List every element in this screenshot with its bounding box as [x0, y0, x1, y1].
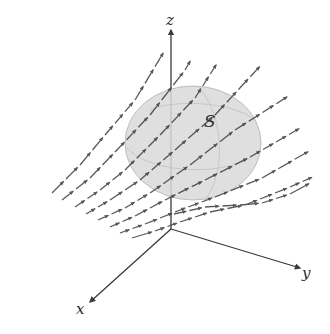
vector-arrow: [276, 136, 286, 142]
vector-arrow: [62, 191, 73, 200]
vector-arrow: [100, 182, 110, 190]
vector-arrow: [112, 209, 122, 214]
vector-arrow: [123, 217, 132, 221]
vector-arrow: [180, 218, 192, 222]
vector-arrow: [110, 223, 119, 227]
vector-arrow: [76, 180, 87, 189]
vector-arrow: [263, 106, 274, 113]
vector-arrow: [125, 202, 135, 208]
vector-arrow: [223, 205, 237, 206]
vector-arrow: [263, 144, 273, 150]
surface-label: S: [204, 111, 216, 131]
vector-arrow: [155, 53, 163, 67]
vector-arrow: [113, 172, 123, 180]
vector-arrow: [145, 70, 153, 84]
x-axis: [90, 229, 171, 302]
vector-arrow: [86, 209, 95, 214]
vector-arrow: [150, 202, 162, 208]
x-axis-label: x: [76, 300, 85, 318]
vector-arrow: [115, 114, 123, 123]
vector-arrow: [295, 152, 308, 160]
vector-arrow: [93, 138, 103, 150]
vector-arrow: [155, 228, 164, 231]
vector-arrow: [240, 203, 259, 205]
vector-arrow: [203, 77, 209, 86]
vector-arrow: [246, 179, 258, 184]
vector-arrow: [138, 195, 148, 201]
vector-arrow: [75, 201, 85, 208]
vector-arrow: [210, 209, 224, 212]
vector-arrow: [98, 215, 108, 220]
vector-arrow: [290, 183, 299, 187]
vector-field-figure: z y x S: [0, 0, 330, 334]
vector-arrow: [135, 210, 147, 216]
vector-arrow: [66, 168, 78, 180]
vector-arrow: [289, 129, 299, 135]
vector-arrow: [125, 103, 133, 112]
vector-arrow: [98, 202, 107, 207]
vector-arrow: [205, 206, 219, 207]
vector-arrow: [145, 219, 157, 224]
vector-arrow: [103, 155, 113, 166]
vector-arrow: [80, 153, 90, 165]
vector-arrow: [190, 208, 202, 211]
vector-arrow: [185, 61, 190, 70]
vector-arrow: [88, 192, 98, 199]
y-axis: [171, 229, 300, 268]
vector-arrow: [262, 200, 273, 203]
vector-arrow: [90, 168, 100, 179]
vector-arrow: [52, 182, 64, 194]
vector-arrow: [125, 182, 137, 190]
vector-arrow: [135, 86, 143, 100]
vector-arrow: [115, 142, 124, 152]
vector-arrow: [262, 170, 275, 178]
vector-arrow: [133, 225, 142, 228]
vector-arrow: [160, 213, 172, 218]
vector-arrow: [120, 230, 129, 233]
y-axis-label: y: [301, 264, 311, 282]
vector-arrow: [173, 73, 183, 85]
closed-surface-S: [125, 86, 261, 200]
vector-arrow: [188, 203, 198, 207]
vector-arrow: [105, 126, 113, 135]
vector-arrow: [110, 192, 122, 200]
z-axis-label: z: [165, 11, 174, 29]
vector-arrow: [239, 79, 248, 89]
vector-arrow: [210, 65, 216, 74]
vector-arrow: [195, 213, 207, 217]
vector-arrow: [168, 223, 177, 226]
vector-arrow: [260, 194, 272, 199]
vector-arrow: [303, 177, 312, 181]
vector-arrow: [275, 188, 287, 193]
vector-arrow: [278, 161, 291, 169]
vector-arrow: [250, 67, 259, 77]
vector-arrow: [276, 97, 287, 104]
vector-arrow: [132, 232, 152, 238]
vector-arrow: [276, 195, 287, 198]
